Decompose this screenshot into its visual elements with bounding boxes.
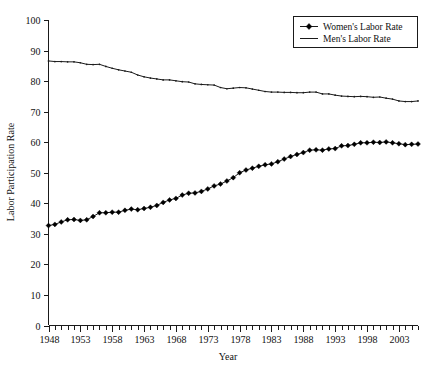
data-point	[162, 79, 164, 81]
data-point	[220, 87, 222, 89]
data-point	[201, 84, 203, 86]
data-point	[46, 223, 51, 228]
data-point	[59, 219, 64, 224]
series-women	[46, 139, 421, 228]
x-tick-label-1993: 1993	[326, 334, 346, 345]
data-point	[263, 162, 268, 167]
data-point	[199, 189, 204, 194]
data-point	[366, 96, 368, 98]
data-point	[365, 140, 370, 145]
data-point	[84, 217, 89, 222]
x-tick-label-1988: 1988	[294, 334, 314, 345]
x-axis-title: Year	[219, 351, 238, 362]
data-point	[288, 154, 293, 159]
data-point	[67, 61, 69, 63]
data-point	[360, 96, 362, 98]
x-axis-minor-ticks	[50, 326, 419, 330]
data-point	[294, 152, 299, 157]
data-point	[86, 63, 88, 65]
data-series-group	[46, 60, 421, 228]
data-point	[322, 93, 324, 95]
data-point	[232, 87, 234, 89]
data-point	[245, 87, 247, 89]
data-point	[283, 92, 285, 94]
data-point	[173, 196, 178, 201]
data-point	[320, 148, 325, 153]
data-point	[290, 92, 292, 94]
x-tick-label-1968: 1968	[167, 334, 187, 345]
data-point	[188, 81, 190, 83]
x-tick-label-1998: 1998	[358, 334, 378, 345]
x-tick-label-1978: 1978	[231, 334, 251, 345]
data-point	[212, 183, 217, 188]
data-point	[110, 210, 115, 215]
data-point	[398, 100, 400, 102]
x-tick-label-1973: 1973	[199, 334, 219, 345]
data-point	[269, 161, 274, 166]
data-point	[258, 89, 260, 91]
data-point	[296, 92, 298, 94]
data-point	[181, 81, 183, 83]
data-point	[334, 94, 336, 96]
data-point	[135, 207, 140, 212]
chart-legend[interactable]: Women's Labor Rate Men's Labor Rate	[294, 17, 418, 48]
data-point	[243, 168, 248, 173]
data-point	[328, 93, 330, 95]
data-point	[65, 217, 70, 222]
data-point	[80, 62, 82, 64]
data-point	[226, 88, 228, 90]
data-point	[186, 191, 191, 196]
y-tick-label-70: 70	[31, 107, 41, 118]
data-point	[409, 142, 414, 147]
y-tick-label-80: 80	[31, 76, 41, 87]
y-axis-ticks	[44, 21, 49, 327]
data-point	[71, 217, 76, 222]
x-tick-label-1983: 1983	[262, 334, 282, 345]
data-point	[122, 208, 127, 213]
data-point	[353, 96, 355, 98]
data-point	[92, 64, 94, 66]
data-point	[150, 77, 152, 79]
x-tick-label-1963: 1963	[135, 334, 155, 345]
data-point	[275, 159, 280, 164]
data-point	[99, 63, 101, 65]
data-point	[137, 74, 139, 76]
y-tick-label-0: 0	[36, 321, 41, 332]
data-point	[60, 61, 62, 63]
data-point	[161, 200, 166, 205]
data-point	[271, 91, 273, 93]
data-point	[314, 147, 319, 152]
line-chart-canvas: 0102030405060708090100 19481953195819631…	[0, 0, 428, 374]
data-point	[97, 210, 102, 215]
data-point	[339, 143, 344, 148]
data-point	[379, 96, 381, 98]
data-point	[390, 140, 395, 145]
data-point	[129, 207, 134, 212]
y-axis-title: Labor Participation Rate	[5, 122, 16, 221]
data-point	[250, 166, 255, 171]
data-point	[218, 182, 223, 187]
data-point	[193, 190, 198, 195]
data-point	[411, 101, 413, 103]
data-point	[377, 140, 382, 145]
y-tick-label-50: 50	[31, 168, 41, 179]
data-point	[142, 206, 147, 211]
data-point	[180, 193, 185, 198]
data-point	[207, 84, 209, 86]
x-tick-label-1953: 1953	[71, 334, 91, 345]
data-point	[124, 70, 126, 72]
data-point	[52, 222, 57, 227]
data-point	[341, 95, 343, 97]
data-point	[205, 186, 210, 191]
x-tick-label-1948: 1948	[40, 334, 60, 345]
data-point	[194, 83, 196, 85]
y-tick-label-30: 30	[31, 229, 41, 240]
data-point	[347, 96, 349, 98]
data-point	[213, 84, 215, 86]
data-point	[403, 142, 408, 147]
data-point	[417, 100, 419, 102]
data-point	[315, 91, 317, 93]
data-point	[345, 143, 350, 148]
data-point	[358, 140, 363, 145]
chart-figure: 0102030405060708090100 19481953195819631…	[0, 0, 428, 374]
